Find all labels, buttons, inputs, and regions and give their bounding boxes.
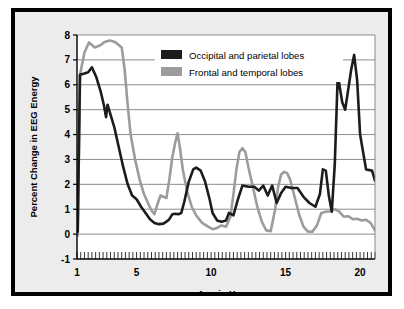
y-tick-label: -1 [61, 254, 70, 265]
y-tick-label: 5 [64, 104, 70, 115]
y-axis-title: Percent Change in EEG Energy [28, 76, 39, 218]
y-tick-label: 8 [64, 30, 70, 41]
x-tick-label: 10 [206, 267, 218, 278]
legend-label: Frontal and temporal lobes [189, 67, 303, 78]
y-tick-label: 7 [64, 54, 70, 65]
legend-swatch [161, 67, 182, 76]
legend-swatch [161, 50, 182, 59]
x-tick-label: 20 [355, 267, 367, 278]
chart-figure: -1012345678 15101520 Occipital and parie… [11, 8, 392, 296]
y-tick-label: 4 [64, 129, 70, 140]
chart-legend: Occipital and parietal lobesFrontal and … [155, 43, 343, 82]
x-axis-title: Age in Years [198, 288, 255, 292]
x-tick-label: 1 [74, 267, 80, 278]
x-tick-label: 15 [280, 267, 292, 278]
x-tick-label: 5 [134, 267, 140, 278]
y-tick-label: 3 [64, 154, 70, 165]
legend-label: Occipital and parietal lobes [189, 50, 304, 61]
y-tick-label: 1 [64, 204, 70, 215]
y-tick-label: 0 [64, 229, 70, 240]
y-tick-label: 6 [64, 79, 70, 90]
y-tick-label: 2 [64, 179, 70, 190]
x-minor-tick-marks [77, 252, 375, 259]
eeg-line-chart: -1012345678 15101520 Occipital and parie… [15, 12, 388, 292]
